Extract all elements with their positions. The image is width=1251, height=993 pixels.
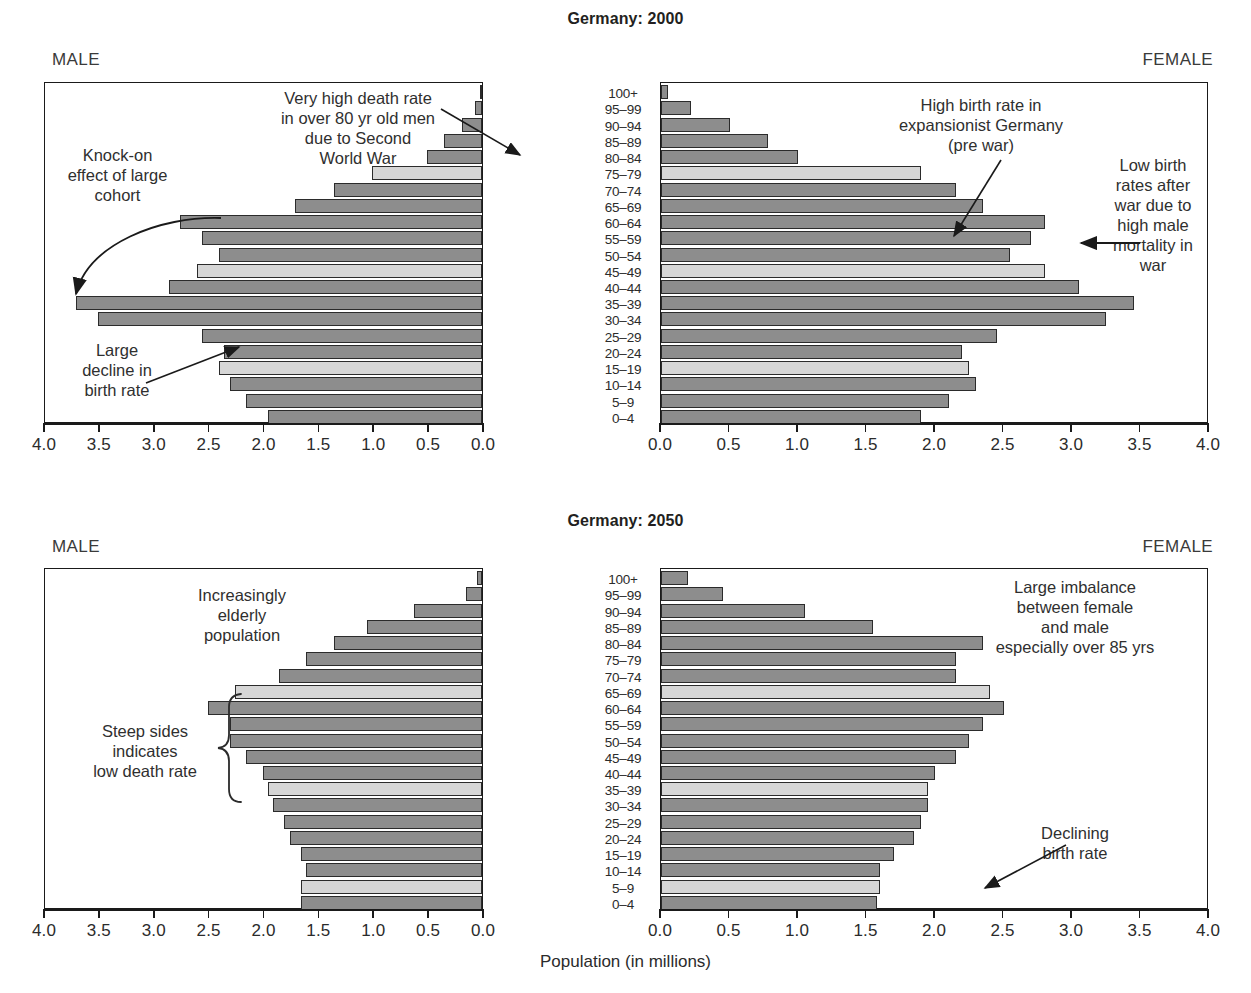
bar-female-50-54: [661, 248, 1010, 262]
axis-tick-label-0.0: 0.0: [648, 435, 672, 455]
female-side-label-2050: FEMALE: [1143, 537, 1213, 557]
axis-tick: [372, 423, 374, 432]
bar-female-90-94: [661, 118, 730, 132]
bar-male-20-24: [290, 831, 482, 845]
bar-male-65-69: [235, 685, 482, 699]
bar-male-35-39: [268, 782, 482, 796]
axis-tick-label-0.5: 0.5: [416, 435, 440, 455]
bar-male-45-49: [246, 750, 482, 764]
male-side-label-2000: MALE: [52, 50, 100, 70]
axis-tick: [1070, 423, 1072, 432]
bar-female-70-74: [661, 183, 956, 197]
bar-female-80-84: [661, 150, 798, 164]
bar-male-30-34: [273, 798, 482, 812]
page-title-2050: Germany: 2050: [0, 512, 1251, 530]
bar-female-80-84: [661, 636, 983, 650]
bar-male-100+: [477, 571, 482, 585]
age-axis-labels-2050: 100+95–9990–9485–8980–8475–7970–7465–696…: [586, 572, 660, 906]
bar-male-0-4: [268, 410, 482, 424]
axis-tick: [482, 909, 484, 918]
axis-tick-label-3.0: 3.0: [142, 435, 166, 455]
axis-tick-label-3.5: 3.5: [87, 435, 111, 455]
age-label-70-74: 70–74: [586, 671, 660, 685]
bar-female-10-14: [661, 377, 976, 391]
axis-tick: [659, 423, 661, 432]
annotation-increasingly-elderly: Increasingly elderly population: [152, 585, 332, 645]
bar-female-25-29: [661, 815, 921, 829]
age-label-40-44: 40–44: [586, 768, 660, 782]
annotation-very-high-death-rate: Very high death rate in over 80 yr old m…: [233, 88, 483, 168]
age-label-55-59: 55–59: [586, 719, 660, 733]
axis-tick: [659, 909, 661, 918]
age-label-30-34: 30–34: [586, 314, 660, 328]
axis-tick-label-3.5: 3.5: [1127, 921, 1151, 941]
age-label-95-99: 95–99: [586, 103, 660, 117]
bar-male-10-14: [230, 377, 482, 391]
x-axis-male-2000: 4.03.53.02.52.01.51.00.50.0: [44, 423, 483, 449]
bar-female-90-94: [661, 604, 805, 618]
bar-female-85-89: [661, 620, 873, 634]
bar-male-35-39: [76, 296, 482, 310]
axis-tick: [728, 909, 730, 918]
axis-tick: [1207, 423, 1209, 432]
x-axis-female-2000: 0.00.51.01.52.02.53.03.54.0: [660, 423, 1208, 449]
bar-female-55-59: [661, 231, 1031, 245]
axis-tick: [1139, 423, 1141, 432]
axis-tick: [933, 909, 935, 918]
age-label-10-14: 10–14: [586, 379, 660, 393]
axis-tick: [263, 423, 265, 432]
age-label-20-24: 20–24: [586, 347, 660, 361]
axis-tick-label-0.0: 0.0: [471, 921, 495, 941]
age-label-5-9: 5–9: [586, 882, 660, 896]
age-label-60-64: 60–64: [586, 217, 660, 231]
page-title-2000: Germany: 2000: [0, 10, 1251, 28]
bar-female-10-14: [661, 863, 880, 877]
age-label-90-94: 90–94: [586, 606, 660, 620]
axis-tick: [98, 909, 100, 918]
age-label-10-14: 10–14: [586, 865, 660, 879]
bar-male-15-19: [301, 847, 482, 861]
annotation-low-birth-rates-after-war: Low birth rates after war due to high ma…: [1088, 155, 1218, 275]
axis-tick: [796, 909, 798, 918]
male-side-label-2050: MALE: [52, 537, 100, 557]
axis-tick-label-1.0: 1.0: [361, 435, 385, 455]
bar-female-40-44: [661, 280, 1079, 294]
bar-female-100+: [661, 85, 668, 99]
bar-male-15-19: [219, 361, 482, 375]
axis-tick: [865, 909, 867, 918]
age-label-100+: 100+: [586, 573, 660, 587]
bar-female-45-49: [661, 750, 956, 764]
axis-tick: [482, 423, 484, 432]
axis-tick-label-2.5: 2.5: [990, 435, 1014, 455]
axis-tick: [1207, 909, 1209, 918]
bar-male-80-84: [334, 636, 482, 650]
age-label-25-29: 25–29: [586, 331, 660, 345]
axis-tick-label-2.0: 2.0: [251, 921, 275, 941]
bar-male-0-4: [301, 896, 482, 910]
age-label-0-4: 0–4: [586, 412, 660, 426]
bar-male-10-14: [306, 863, 482, 877]
age-label-90-94: 90–94: [586, 120, 660, 134]
age-label-20-24: 20–24: [586, 833, 660, 847]
axis-tick: [208, 423, 210, 432]
bar-female-5-9: [661, 880, 880, 894]
bar-male-40-44: [169, 280, 482, 294]
bar-male-70-74: [334, 183, 482, 197]
axis-tick-label-4.0: 4.0: [32, 435, 56, 455]
bar-female-45-49: [661, 264, 1045, 278]
bar-female-40-44: [661, 766, 935, 780]
bar-female-20-24: [661, 345, 962, 359]
bar-female-15-19: [661, 847, 894, 861]
bar-female-0-4: [661, 896, 877, 910]
axis-tick-label-0.5: 0.5: [716, 435, 740, 455]
axis-tick-label-1.5: 1.5: [853, 921, 877, 941]
age-label-0-4: 0–4: [586, 898, 660, 912]
axis-tick-label-1.0: 1.0: [785, 435, 809, 455]
annotation-large-decline-birth-rate: Large decline in birth rate: [52, 340, 182, 400]
bar-male-5-9: [301, 880, 482, 894]
annotation-large-imbalance: Large imbalance between female and male …: [950, 577, 1200, 657]
age-label-80-84: 80–84: [586, 152, 660, 166]
axis-tick: [933, 423, 935, 432]
bar-female-65-69: [661, 199, 983, 213]
axis-tick: [427, 423, 429, 432]
